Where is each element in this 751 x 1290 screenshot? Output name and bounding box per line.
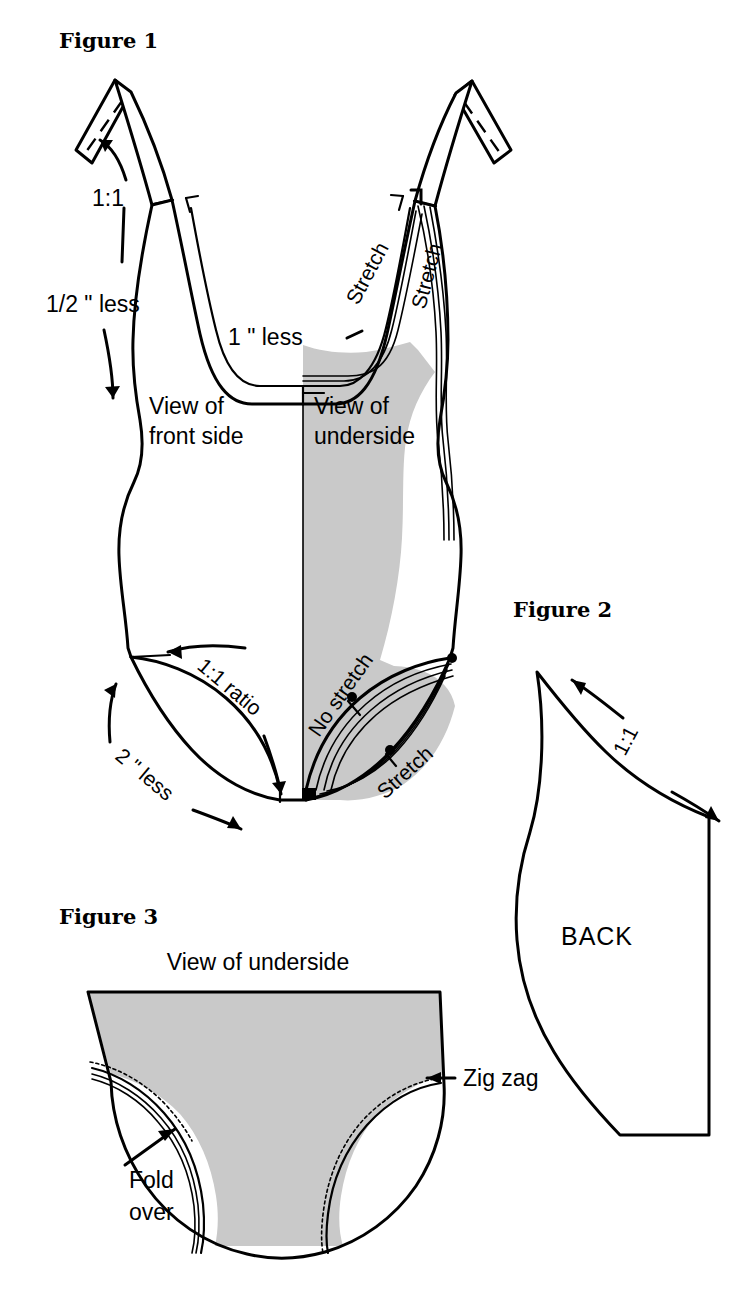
front-view-label-line2: front side xyxy=(149,423,244,449)
neckline-less-label: 1 " less xyxy=(228,324,303,350)
underside-view-label-line1: View of xyxy=(314,393,390,419)
stretch-neck-label: Stretch xyxy=(341,238,393,308)
figure-3-group: Figure 3 View of underside Zig zag Fold xyxy=(59,904,538,1258)
right-strap xyxy=(415,81,472,206)
armhole-less-label: 1/2 " less xyxy=(46,291,140,317)
leg-junction-dot-top xyxy=(447,653,457,663)
leg-less-label: 2 " less xyxy=(111,743,178,804)
shoulder-ratio-label: 1:1 xyxy=(92,185,124,211)
figure-3-title: Figure 3 xyxy=(59,904,158,929)
strap-seam-ticks xyxy=(153,195,436,212)
back-piece-label: BACK xyxy=(561,922,633,950)
underside-view-label-line2: underside xyxy=(314,423,415,449)
stretch-strap-label: Stretch xyxy=(407,241,446,311)
figure-1-title: Figure 1 xyxy=(59,28,158,53)
leg-ratio-label: 1:1 ratio xyxy=(193,653,266,719)
front-view-label-line1: View of xyxy=(149,393,225,419)
figure-2-annotation-arrows xyxy=(572,680,719,821)
figure-2-group: Figure 2 1:1 BACK xyxy=(513,597,719,1135)
fold-over-annotation xyxy=(125,1129,175,1165)
figure-1-group: Figure 1 xyxy=(46,28,511,829)
crotch-block xyxy=(302,788,316,800)
zig-zag-label: Zig zag xyxy=(463,1065,538,1091)
diagram-canvas: Figure 1 xyxy=(0,0,751,1290)
fold-over-label-line1: Fold xyxy=(129,1167,174,1193)
fold-over-label-line2: over xyxy=(129,1199,174,1225)
figure-3-view-label: View of underside xyxy=(167,949,349,975)
figure-2-ratio-label: 1:1 xyxy=(608,722,642,759)
figure-2-title: Figure 2 xyxy=(513,597,612,622)
